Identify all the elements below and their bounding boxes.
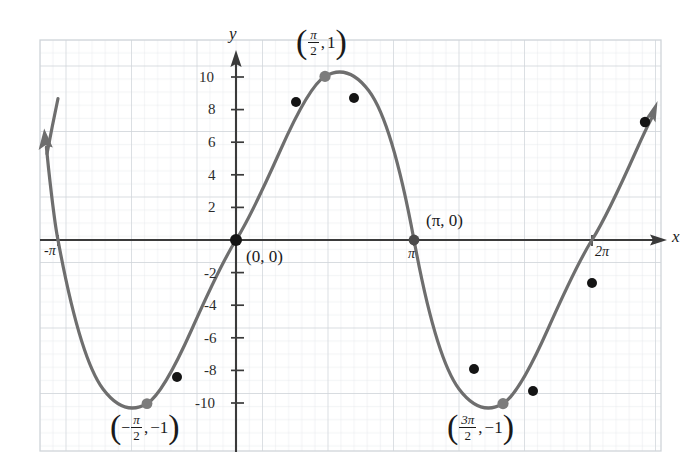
y-tick-2: 2 [208,200,216,215]
sine-graph-svg [0,0,697,472]
y-tick-neg4: -4 [204,298,217,313]
label-pi-zero: (π, 0) [426,212,463,229]
x-tick-2pi: 2π [595,245,609,259]
x-tick-neg-pi: -π [44,244,56,258]
open-paren: ( [447,415,458,439]
comma: , [144,419,148,436]
y-tick-neg8: -8 [204,363,217,378]
open-paren: ( [110,415,121,439]
point-dot [469,364,479,374]
label-origin: (0, 0) [246,248,283,265]
close-paren: ) [168,415,179,439]
point-dot [587,278,597,288]
point-dot [640,117,650,127]
point-peak [319,71,330,82]
label-min-left: ( − π 2 , −1 ) [110,413,180,443]
x-tick-pi: π [408,247,415,261]
comma: , [478,419,482,436]
grid-paper [40,40,661,451]
fraction-pi-over-2: π 2 [131,413,142,443]
fraction-3pi-over-2: 3π 2 [459,413,476,443]
y-tick-neg10: -10 [195,396,215,411]
y-tick-neg2: -2 [204,266,217,281]
open-paren: ( [296,30,307,54]
y-tick-6: 6 [208,135,216,150]
label-min-right: ( 3π 2 , −1 ) [447,413,514,443]
point-origin [230,234,242,246]
graph-figure: y x 10 8 6 4 2 -2 -4 -6 -8 -10 -π π 2π (… [0,0,697,472]
point-min-left [142,398,153,409]
y-tick-4: 4 [208,168,216,183]
y-tick-10: 10 [199,70,214,85]
fraction-pi-over-2: π 2 [308,28,319,58]
close-paren: ) [503,415,514,439]
x-axis-label: x [672,228,680,245]
y-axis-label: y [229,25,237,42]
point-dot [349,93,359,103]
y-tick-8: 8 [208,102,216,117]
point-pi-zero [409,235,420,246]
y-tick-neg6: -6 [204,331,217,346]
close-paren: ) [336,30,347,54]
point-dot [528,386,538,396]
minus-sign: − [121,420,130,436]
point-dot [291,97,301,107]
comma: , [321,34,325,51]
label-peak: ( π 2 , 1 ) [296,28,347,58]
point-dot [172,372,182,382]
